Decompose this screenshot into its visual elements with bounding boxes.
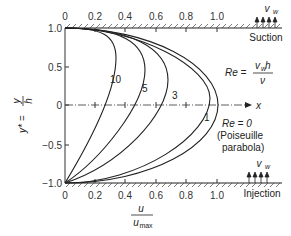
svg-text:h: h <box>265 60 271 71</box>
top-wall <box>65 24 282 28</box>
injection-arrows-icon <box>247 172 269 183</box>
curve-re-1 <box>65 28 210 183</box>
svg-text:v: v <box>257 158 263 169</box>
svg-text:h: h <box>23 98 34 104</box>
svg-text:0.2: 0.2 <box>88 190 102 201</box>
y-axis-label: y* = y h <box>11 96 34 134</box>
label-re-3: 3 <box>172 90 178 101</box>
label-re-5: 5 <box>142 83 148 94</box>
svg-text:Suction: Suction <box>249 32 282 43</box>
svg-text:y: y <box>11 98 22 105</box>
svg-text:0: 0 <box>62 190 68 201</box>
svg-text:w: w <box>273 8 279 15</box>
svg-text:Re =: Re = <box>225 67 247 78</box>
y-ticks <box>65 67 69 145</box>
svg-text:max: max <box>139 222 153 229</box>
curve-re-10 <box>65 28 116 183</box>
curve-re-3 <box>65 28 168 183</box>
top-tick-labels: 0 0.2 0.4 0.6 0.8 1.0 <box>62 11 224 22</box>
left-tick-labels: 1.0 0.5 0 −0.5 −1.0 <box>42 23 62 189</box>
svg-text:0.6: 0.6 <box>149 190 163 201</box>
svg-text:Injection: Injection <box>243 188 280 199</box>
suction-annotation: v w Suction <box>249 3 282 43</box>
svg-text:v: v <box>265 3 271 14</box>
svg-text:1.0: 1.0 <box>210 190 224 201</box>
bottom-tick-labels: 0 0.2 0.4 0.6 0.8 1.0 <box>62 190 224 201</box>
svg-text:1.0: 1.0 <box>210 11 224 22</box>
velocity-profile-chart: 10 5 3 1 0 0.2 0.4 0.6 0.8 1.0 0 0.2 0.4… <box>0 0 291 236</box>
svg-text:0.5: 0.5 <box>48 62 62 73</box>
svg-text:0.8: 0.8 <box>179 11 193 22</box>
svg-text:u: u <box>133 217 139 228</box>
svg-text:0: 0 <box>56 100 62 111</box>
svg-text:Re = 0: Re = 0 <box>222 118 252 129</box>
svg-text:−1.0: −1.0 <box>42 178 62 189</box>
svg-text:0.4: 0.4 <box>118 190 132 201</box>
svg-text:0.4: 0.4 <box>118 11 132 22</box>
svg-text:1.0: 1.0 <box>48 23 62 34</box>
svg-text:0: 0 <box>62 11 68 22</box>
label-re-10: 10 <box>110 74 122 85</box>
svg-text:u: u <box>138 203 144 214</box>
label-re-1: 1 <box>204 112 210 123</box>
curve-re-0 <box>65 28 218 183</box>
x-arrow-icon <box>245 102 252 108</box>
re-formula: Re = v w h ν <box>225 60 273 86</box>
svg-text:parabola): parabola) <box>222 142 264 153</box>
svg-text:(Poiseuille: (Poiseuille <box>217 130 264 141</box>
svg-text:w: w <box>265 163 271 170</box>
svg-text:0.8: 0.8 <box>179 190 193 201</box>
svg-text:0.2: 0.2 <box>88 11 102 22</box>
re0-annotation: Re = 0 (Poiseuille parabola) <box>217 118 264 153</box>
centerline-label: x <box>255 100 262 111</box>
svg-text:0.6: 0.6 <box>149 11 163 22</box>
profile-curves <box>65 28 218 183</box>
bottom-wall <box>65 183 282 187</box>
injection-annotation: v w Injection <box>243 158 280 199</box>
x-axis-label: u u max <box>131 203 153 229</box>
svg-text:y* =: y* = <box>17 115 28 134</box>
svg-text:ν: ν <box>260 75 265 86</box>
svg-text:−0.5: −0.5 <box>42 140 62 151</box>
